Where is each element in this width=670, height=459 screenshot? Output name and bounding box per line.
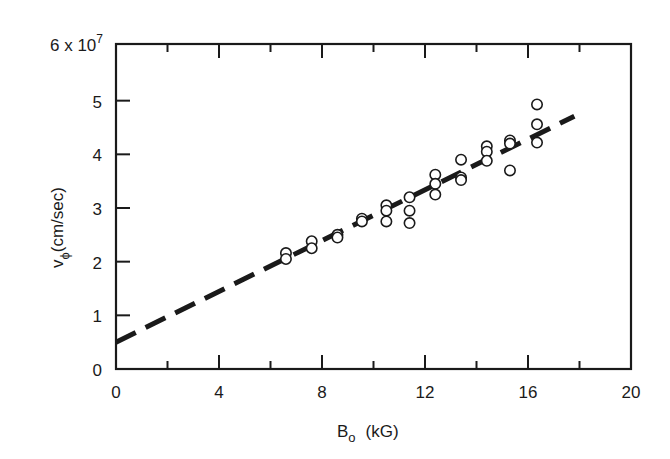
data-point (505, 165, 515, 175)
data-point (482, 156, 492, 166)
y-tick-label: 1 (93, 307, 102, 326)
data-point (430, 189, 440, 199)
dashed-fit-line (116, 116, 574, 342)
y-tick-label: 0 (93, 361, 102, 380)
data-point (404, 205, 414, 215)
chart: 048121620 012345 6 x 107 Bo(kG) vϕ(cm/se… (0, 0, 670, 459)
data-point (532, 137, 542, 147)
axes-box (116, 44, 631, 369)
x-tick-label: 4 (214, 383, 223, 402)
x-tick-label: 12 (416, 383, 435, 402)
x-axis-ticks: 048121620 (111, 44, 640, 402)
data-point (430, 179, 440, 189)
data-point (281, 254, 291, 264)
y-axis-label: vϕ(cm/sec) (48, 187, 72, 268)
data-point (381, 216, 391, 226)
x-axis-label: Bo(kG) (337, 422, 399, 445)
data-point (307, 243, 317, 253)
fit-line (116, 116, 574, 342)
data-point (381, 205, 391, 215)
data-point (404, 192, 414, 202)
y-tick-label: 5 (93, 93, 102, 112)
data-point (532, 119, 542, 129)
data-point (532, 99, 542, 109)
plot-frame (116, 44, 631, 369)
data-point (332, 232, 342, 242)
x-tick-label: 8 (317, 383, 326, 402)
y-scale-label: 6 x 107 (50, 32, 103, 55)
y-tick-label: 4 (93, 146, 102, 165)
data-point (404, 218, 414, 228)
x-tick-label: 0 (111, 383, 120, 402)
x-tick-label: 16 (519, 383, 538, 402)
data-points (281, 99, 542, 264)
data-point (456, 155, 466, 165)
data-point (456, 175, 466, 185)
x-tick-label: 20 (622, 383, 641, 402)
y-tick-label: 3 (93, 200, 102, 219)
data-point (505, 138, 515, 148)
data-point (357, 216, 367, 226)
y-tick-label: 2 (93, 254, 102, 273)
